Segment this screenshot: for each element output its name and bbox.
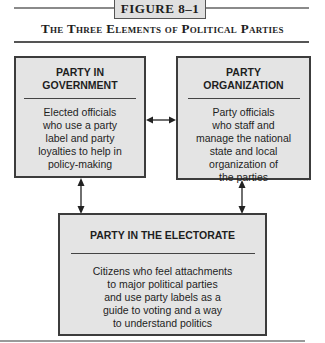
electorate-desc-line: Citizens who feel attachments	[60, 265, 265, 278]
electorate-heading: PARTY IN THE ELECTORATE	[60, 229, 265, 242]
organization-desc-line: who staff and	[178, 119, 309, 132]
figure-title: The Three Elements of Political Parties	[0, 21, 325, 37]
government-heading-line2: GOVERNMENT	[16, 79, 144, 92]
electorate-desc-line: guide to voting and a way	[60, 304, 265, 317]
government-desc-line: label and party	[16, 132, 144, 145]
organization-heading: PARTY ORGANIZATION	[178, 66, 309, 92]
electorate-description: Citizens who feel attachments to major p…	[60, 265, 265, 330]
organization-desc-line: organization of	[178, 158, 309, 171]
double-arrow-vertical-left-icon	[76, 178, 86, 214]
electorate-desc-line: to major political parties	[60, 278, 265, 291]
organization-desc-line: state and local	[178, 145, 309, 158]
bottom-rule	[0, 340, 305, 342]
government-divider	[24, 98, 136, 99]
government-desc-line: Elected officials	[16, 106, 144, 119]
organization-desc-line: Party officials	[178, 106, 309, 119]
title-underline	[14, 41, 309, 43]
top-rule-left	[14, 7, 114, 9]
top-rule-right	[206, 7, 309, 9]
government-heading-line1: PARTY IN	[16, 66, 144, 79]
electorate-desc-line: and use party labels as a	[60, 291, 265, 304]
government-description: Elected officials who use a party label …	[16, 106, 144, 171]
organization-heading-line2: ORGANIZATION	[178, 79, 309, 92]
government-desc-line: who use a party	[16, 119, 144, 132]
electorate-divider	[71, 253, 255, 254]
box-party-organization: PARTY ORGANIZATION Party officials who s…	[176, 56, 311, 180]
double-arrow-horizontal-icon	[146, 115, 176, 125]
organization-divider	[188, 98, 300, 99]
figure-label: FIGURE 8–1	[114, 0, 206, 19]
organization-description: Party officials who staff and manage the…	[178, 106, 309, 184]
government-heading: PARTY IN GOVERNMENT	[16, 66, 144, 92]
electorate-desc-line: to understand politics	[60, 317, 265, 330]
box-party-in-government: PARTY IN GOVERNMENT Elected officials wh…	[14, 56, 146, 178]
double-arrow-vertical-right-icon	[237, 180, 247, 214]
organization-heading-line1: PARTY	[178, 66, 309, 79]
government-desc-line: policy-making	[16, 158, 144, 171]
organization-desc-line: manage the national	[178, 132, 309, 145]
government-desc-line: loyalties to help in	[16, 145, 144, 158]
box-party-in-the-electorate: PARTY IN THE ELECTORATE Citizens who fee…	[58, 213, 267, 336]
